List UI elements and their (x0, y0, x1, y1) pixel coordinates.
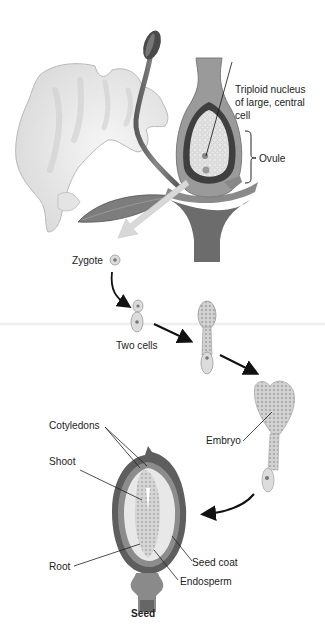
label-seed: Seed (131, 607, 155, 620)
label-embryo: Embryo (206, 434, 241, 447)
seed-shape (112, 446, 186, 612)
label-triploid-line2: of large, central (235, 96, 305, 109)
ovary (176, 58, 242, 197)
zygote-cell (110, 255, 120, 265)
label-triploid-line3: cell (235, 109, 250, 122)
label-endosperm: Endosperm (180, 575, 232, 588)
arrow-to-proembryo (154, 324, 188, 340)
label-triploid-line1: Triploid nucleus (235, 83, 306, 96)
cotyledons-pointer-1 (105, 427, 140, 468)
label-root: Root (49, 560, 70, 573)
label-cotyledons: Cotyledons (49, 419, 100, 432)
anther-shape (140, 28, 164, 61)
label-two-cells: Two cells (116, 339, 158, 352)
label-zygote: Zygote (72, 254, 103, 267)
flower-stem (170, 200, 250, 262)
embryo-shape (254, 381, 294, 492)
label-ovule: Ovule (259, 152, 285, 165)
cotyledons-pointer-2 (105, 427, 147, 466)
arrow-to-seed (206, 494, 254, 514)
ovule-bracket (245, 131, 256, 183)
arrow-zygote-to-two-cells (112, 272, 127, 305)
proembryo-shape (198, 301, 216, 374)
two-cells-shape (131, 300, 143, 332)
diagram-canvas: Triploid nucleus of large, central cell … (0, 0, 325, 637)
label-shoot: Shoot (49, 455, 75, 468)
triploid-nucleus (202, 153, 208, 159)
label-seed-coat: Seed coat (192, 556, 238, 569)
arrow-to-embryo (220, 355, 254, 372)
